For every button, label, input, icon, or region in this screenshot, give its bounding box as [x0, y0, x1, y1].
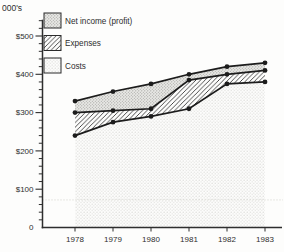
data-point	[263, 80, 268, 85]
data-point	[225, 72, 230, 77]
x-tick-label: 1982	[218, 235, 236, 244]
x-tick-label: 1978	[66, 235, 84, 244]
x-tick-label: 1980	[142, 235, 160, 244]
data-point	[187, 72, 192, 77]
y-tick-label: $200	[16, 147, 34, 156]
y-tick-label: $300	[16, 108, 34, 117]
data-point	[149, 81, 154, 86]
stacked-area-chart: $500$400$300$200$1000000's19781979198019…	[0, 0, 284, 252]
data-point	[73, 99, 78, 104]
legend-label: Costs	[65, 62, 86, 71]
x-tick-label: 1983	[256, 235, 274, 244]
legend-swatch-fine-dots	[44, 58, 61, 73]
data-point	[149, 114, 154, 119]
y-tick-label: 0	[29, 223, 34, 232]
data-point	[263, 60, 268, 65]
legend-group: Net income (profit)ExpensesCosts	[44, 13, 133, 73]
data-point	[149, 106, 154, 111]
y-tick-label: $400	[16, 70, 34, 79]
legend-label: Expenses	[65, 39, 101, 48]
data-point	[263, 68, 268, 73]
data-point	[111, 108, 116, 113]
legend-label: Net income (profit)	[65, 17, 133, 26]
data-point	[187, 106, 192, 111]
legend-swatch-stipple	[44, 13, 61, 28]
data-point	[73, 133, 78, 138]
chart-figure: $500$400$300$200$1000000's19781979198019…	[0, 0, 284, 252]
data-point	[225, 64, 230, 69]
data-point	[187, 78, 192, 83]
y-axis-unit-label: 000's	[2, 3, 22, 13]
legend-swatch-diagonal-hatch	[44, 36, 61, 51]
y-tick-label: $100	[16, 185, 34, 194]
data-point	[111, 120, 116, 125]
y-tick-label: $500	[16, 32, 34, 41]
area-bands-group	[75, 63, 265, 228]
x-tick-label: 1979	[104, 235, 122, 244]
data-point	[73, 110, 78, 115]
x-tick-label: 1981	[180, 235, 198, 244]
data-point	[225, 81, 230, 86]
data-point	[111, 89, 116, 94]
